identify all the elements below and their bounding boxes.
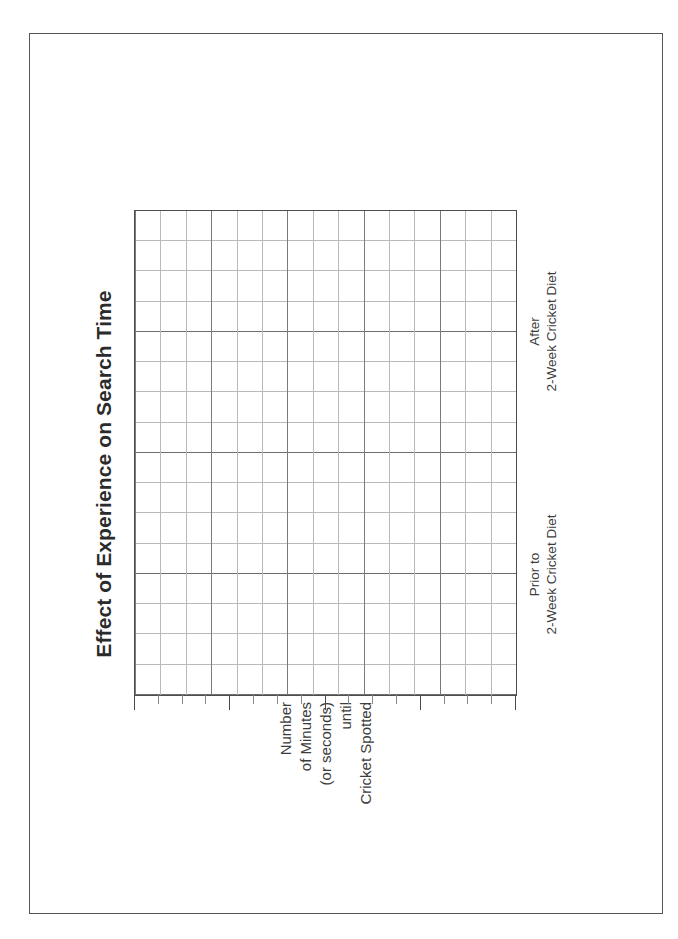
y-axis-label-line-3: (or seconds) bbox=[316, 702, 336, 824]
y-axis-tick bbox=[205, 695, 206, 704]
y-axis-tick bbox=[491, 695, 492, 704]
y-axis-label-line-2: of Minutes bbox=[296, 702, 316, 824]
plot-area bbox=[134, 210, 517, 696]
x-axis-category-2-line-1: After bbox=[526, 210, 543, 453]
y-axis-tick bbox=[420, 695, 421, 710]
x-axis-category-1-line-1: Prior to bbox=[526, 453, 543, 696]
y-axis-label: Number of Minutes (or seconds) until Cri… bbox=[276, 702, 376, 824]
worksheet-page: Effect of Experience on Search Time Numb… bbox=[29, 33, 663, 914]
grid-line-horizontal bbox=[262, 211, 263, 695]
y-axis-tick bbox=[467, 695, 468, 704]
y-axis-tick bbox=[396, 695, 397, 704]
y-axis-tick bbox=[348, 695, 349, 704]
grid-line-horizontal bbox=[516, 211, 517, 695]
y-axis-tick bbox=[444, 695, 445, 704]
grid-line-horizontal bbox=[313, 211, 314, 695]
y-axis-tick bbox=[301, 695, 302, 704]
y-axis-tick bbox=[515, 695, 516, 710]
y-axis-tick bbox=[182, 695, 183, 704]
y-axis-tick bbox=[372, 695, 373, 704]
x-axis-category-1-line-2: 2-Week Cricket Diet bbox=[543, 453, 560, 696]
grid-line-horizontal bbox=[389, 211, 390, 695]
grid-line-vertical bbox=[135, 301, 516, 302]
y-axis-tick bbox=[325, 695, 326, 710]
grid-line-vertical bbox=[135, 512, 516, 513]
grid-line-vertical bbox=[135, 331, 516, 332]
x-axis-category-labels: Prior to 2-Week Cricket Diet After 2-Wee… bbox=[526, 210, 586, 696]
x-axis-category-2-line-2: 2-Week Cricket Diet bbox=[543, 210, 560, 453]
grid-line-vertical bbox=[135, 633, 516, 634]
chart-title: Effect of Experience on Search Time bbox=[92, 124, 116, 824]
chart-figure: Effect of Experience on Search Time Numb… bbox=[86, 124, 606, 824]
grid-line-horizontal bbox=[135, 211, 136, 695]
grid-line-vertical bbox=[135, 422, 516, 423]
y-axis-tick-rail bbox=[134, 695, 517, 696]
grid-line-horizontal bbox=[440, 211, 441, 695]
grid-line-vertical bbox=[135, 210, 516, 211]
y-axis-label-line-1: Number bbox=[276, 702, 296, 824]
y-axis-label-line-5: Cricket Spotted bbox=[356, 702, 376, 824]
grid-line-horizontal bbox=[338, 211, 339, 695]
y-axis-label-line-4: until bbox=[336, 702, 356, 824]
grid-line-vertical bbox=[135, 270, 516, 271]
grid-line-vertical bbox=[135, 361, 516, 362]
grid-line-vertical bbox=[135, 482, 516, 483]
grid-line-horizontal bbox=[287, 211, 288, 695]
x-axis-category-1: Prior to 2-Week Cricket Diet bbox=[526, 453, 560, 696]
grid-line-horizontal bbox=[160, 211, 161, 695]
grid-line-horizontal bbox=[186, 211, 187, 695]
grid-line-vertical bbox=[135, 603, 516, 604]
grid-line-vertical bbox=[135, 543, 516, 544]
y-axis-tick bbox=[253, 695, 254, 704]
grid-line-horizontal bbox=[237, 211, 238, 695]
grid-line-vertical bbox=[135, 452, 516, 453]
grid-line-horizontal bbox=[491, 211, 492, 695]
y-axis-tick bbox=[134, 695, 135, 710]
y-axis-tick bbox=[277, 695, 278, 704]
grid-line-vertical bbox=[135, 240, 516, 241]
grid-line-horizontal bbox=[414, 211, 415, 695]
grid-line-horizontal bbox=[465, 211, 466, 695]
grid-line-vertical bbox=[135, 391, 516, 392]
rotated-chart-container: Effect of Experience on Search Time Numb… bbox=[86, 124, 606, 824]
grid-line-vertical bbox=[135, 664, 516, 665]
grid-line-horizontal bbox=[364, 211, 365, 695]
grid-line-vertical bbox=[135, 573, 516, 574]
grid-line-horizontal bbox=[211, 211, 212, 695]
y-axis-tick bbox=[158, 695, 159, 704]
x-axis-category-2: After 2-Week Cricket Diet bbox=[526, 210, 560, 453]
y-axis-tick bbox=[229, 695, 230, 710]
